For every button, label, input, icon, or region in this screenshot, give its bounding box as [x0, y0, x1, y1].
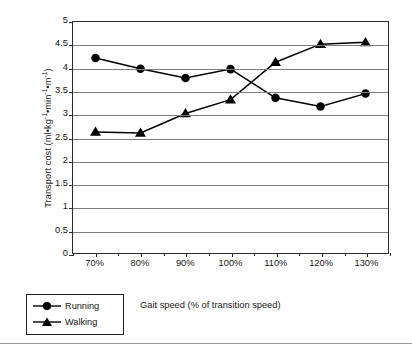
y-tick-mark [69, 45, 73, 46]
gridline [73, 162, 388, 163]
x-tick-mark [232, 253, 233, 257]
y-axis-title-sup-1: -1 [41, 113, 48, 119]
x-minor-tick-mark [390, 253, 391, 256]
y-tick-label: 4 [48, 63, 68, 72]
x-tick-mark [277, 253, 278, 257]
figure: Transport cost (ml•kg-1•min-1•m-1) 00.51… [0, 0, 412, 348]
y-axis-tick-labels: 00.511.522.533.544.55 [48, 21, 68, 254]
x-minor-tick-mark [345, 253, 346, 256]
x-axis-title: Gait speed (% of transition speed) [140, 300, 370, 310]
y-tick-label: 3.5 [48, 86, 68, 95]
y-tick-mark [69, 69, 73, 70]
series-line [95, 42, 365, 133]
x-minor-tick-mark [164, 253, 165, 256]
legend-item-walking: Walking [27, 314, 123, 330]
legend-label-walking: Walking [65, 317, 97, 327]
x-minor-tick-mark [209, 253, 210, 256]
data-point-circle [91, 54, 100, 63]
y-tick-label: 1.5 [48, 179, 68, 188]
x-tick-label: 130% [343, 258, 389, 268]
legend-label-running: Running [65, 301, 99, 311]
x-tick-mark [322, 253, 323, 257]
y-tick-label: 4.5 [48, 39, 68, 48]
y-axis-title-sup-2: -1 [41, 89, 48, 95]
gridline [73, 139, 388, 140]
x-tick-mark [186, 253, 187, 257]
x-minor-tick-mark [299, 253, 300, 256]
gridline [73, 232, 388, 233]
y-tick-mark [69, 115, 73, 116]
legend-item-running: Running [27, 298, 123, 314]
data-point-circle [181, 74, 190, 83]
x-tick-label: 120% [298, 258, 344, 268]
gridline [73, 45, 388, 46]
gridline [73, 185, 388, 186]
gridline [73, 69, 388, 70]
circle-marker-icon [32, 299, 62, 313]
y-tick-label: 0.5 [48, 226, 68, 235]
x-tick-label: 70% [72, 258, 118, 268]
x-tick-label: 110% [253, 258, 299, 268]
series-walking [90, 37, 371, 137]
data-point-circle [271, 94, 280, 103]
y-tick-label: 1 [48, 202, 68, 211]
y-tick-label: 2 [48, 156, 68, 165]
data-series-layer [73, 22, 388, 253]
x-tick-label: 100% [208, 258, 254, 268]
x-tick-mark [96, 253, 97, 257]
data-point-triangle [90, 127, 101, 136]
y-tick-label: 0 [48, 249, 68, 258]
y-tick-mark [69, 92, 73, 93]
legend: Running Walking [26, 294, 124, 335]
y-axis-title-sup-3: -1 [41, 71, 48, 77]
y-tick-label: 2.5 [48, 133, 68, 142]
gridline [73, 208, 388, 209]
gridline [73, 92, 388, 93]
gridline [73, 115, 388, 116]
x-tick-label: 80% [117, 258, 163, 268]
x-tick-mark [141, 253, 142, 257]
data-point-circle [361, 89, 370, 98]
x-minor-tick-mark [254, 253, 255, 256]
y-tick-mark [69, 232, 73, 233]
x-tick-mark [367, 253, 368, 257]
y-tick-mark [69, 139, 73, 140]
x-tick-label: 90% [162, 258, 208, 268]
x-axis-tick-labels: 70%80%90%100%110%120%130% [72, 258, 389, 272]
y-tick-label: 5 [48, 16, 68, 25]
x-minor-tick-mark [73, 253, 74, 256]
data-point-circle [316, 102, 325, 111]
triangle-marker-icon [32, 315, 62, 329]
x-minor-tick-mark [118, 253, 119, 256]
y-tick-mark [69, 185, 73, 186]
y-tick-mark [69, 22, 73, 23]
plot-area [72, 21, 389, 254]
y-tick-mark [69, 162, 73, 163]
y-tick-label: 3 [48, 109, 68, 118]
y-tick-mark [69, 208, 73, 209]
bottom-divider [0, 343, 412, 344]
